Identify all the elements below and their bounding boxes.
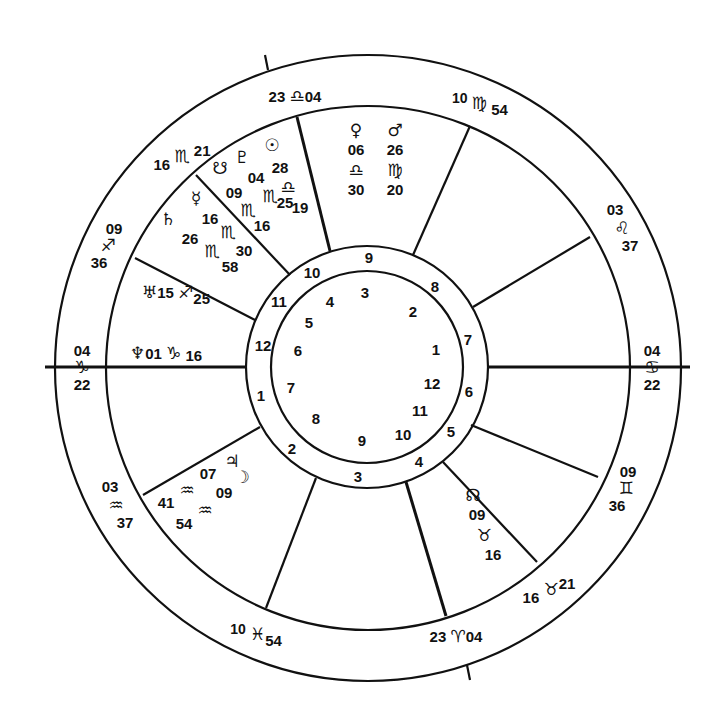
sagittarius-icon: ♐: [178, 282, 193, 302]
pisces-icon: ♓: [250, 624, 265, 644]
aries-icon: ♈: [450, 626, 465, 646]
cusp-line-mc-tick: [265, 55, 268, 70]
house-number-inner: 12: [424, 376, 441, 392]
north-node-icon: ☊: [445, 485, 502, 505]
libra-icon: ♎: [280, 179, 295, 195]
cancer-icon: ♋: [644, 359, 661, 376]
jupiter-min: 41: [158, 495, 175, 511]
planet-mars: ♂ 26 ♍ 20: [387, 120, 404, 200]
uranus-icon: ♅: [142, 282, 157, 302]
planet-neptune: ♆01 ♑ 16: [130, 345, 202, 362]
saturn-icon: ♄: [160, 211, 175, 227]
cusp-label-8: 09 ♐ 36: [90, 220, 123, 271]
natal-chart-wheel: [0, 0, 721, 724]
house-number-outer: 12: [255, 338, 272, 354]
house-number-inner: 8: [312, 411, 320, 427]
scorpio-icon: ♏: [204, 243, 219, 259]
south-node-min: 16: [254, 218, 271, 234]
sun-deg: 28: [272, 160, 289, 176]
scorpio-icon: ♏: [220, 224, 235, 240]
taurus-icon: ♉: [467, 525, 502, 545]
cusp-line-ic: [406, 482, 446, 616]
house-number-outer: 5: [447, 424, 455, 440]
planet-north-node: ☊ 09 ♉ 16: [463, 485, 502, 565]
aquarius-icon: ♒: [197, 502, 212, 518]
house-number-outer: 6: [465, 384, 473, 400]
house-number-outer: 9: [365, 250, 373, 266]
house-number-inner: 5: [305, 315, 313, 331]
house-ring-outer-circle: [246, 246, 488, 488]
saturn-min: 58: [222, 259, 239, 275]
aquarius-icon: ♒: [99, 496, 134, 514]
jupiter-deg: 07: [200, 466, 217, 482]
house-number-outer: 1: [257, 388, 265, 404]
cusp-label-11: 10 ♍ 54: [452, 95, 508, 112]
mercury-deg: 16: [202, 211, 219, 227]
cusp-label-5: 10 ♓54: [230, 626, 282, 643]
house-number-outer: 4: [415, 454, 423, 470]
cusp-label-ic: 23 ♈04: [430, 628, 483, 645]
house-number-outer: 2: [288, 441, 296, 457]
sagittarius-icon: ♐: [94, 237, 123, 254]
house-number-outer: 10: [304, 265, 321, 281]
house-number-inner: 7: [287, 380, 295, 396]
mercury-min: 30: [236, 243, 253, 259]
house-number-inner: 10: [395, 427, 412, 443]
house-number-inner: 4: [326, 294, 334, 310]
libra-icon: ♎: [348, 160, 365, 180]
gemini-icon: ♊: [616, 480, 637, 497]
moon-deg: 09: [216, 485, 233, 501]
house-number-outer: 3: [354, 469, 362, 485]
pluto-icon: ♇: [234, 149, 249, 165]
saturn-deg: 26: [182, 231, 199, 247]
cusp-label-3: 16 ♉21: [523, 581, 576, 598]
cusp-line-5: [266, 478, 316, 608]
house-number-outer: 7: [464, 332, 472, 348]
house-number-outer: 11: [271, 294, 287, 310]
house-number-inner: 9: [358, 433, 366, 449]
cusp-label-asc: 04 ♋ 22: [644, 342, 661, 393]
cusp-line-12: [473, 237, 590, 307]
scorpio-icon: ♏: [240, 202, 255, 218]
cusp-label-9: 16 ♏ 21: [154, 148, 211, 165]
aquarius-icon: ♒: [179, 482, 194, 498]
south-node-icon: ☋: [212, 160, 227, 176]
cusp-line-mc: [297, 117, 330, 251]
house-number-inner: 6: [294, 343, 302, 359]
house-number-outer: 8: [431, 279, 439, 295]
house-number-inner: 11: [412, 403, 428, 419]
scorpio-icon: ♏: [174, 146, 189, 166]
neptune-icon: ♆: [130, 343, 145, 363]
cusp-line-11: [413, 126, 470, 255]
pluto-deg: 04: [248, 170, 265, 186]
leo-icon: ♌: [606, 219, 639, 237]
cusp-label-dsc: 04 ♑ 22: [74, 342, 91, 393]
capricorn-icon: ♑: [166, 343, 181, 363]
cusp-label-mc: 23 ♎04: [269, 88, 322, 105]
libra-icon: ♎: [289, 86, 304, 106]
south-node-deg: 09: [226, 185, 243, 201]
moon-min: 54: [176, 516, 193, 532]
cusp-label-6: 03 ♒ 37: [103, 478, 134, 532]
capricorn-icon: ♑: [74, 359, 91, 376]
mars-icon: ♂: [387, 120, 404, 140]
scorpio-icon: ♏: [262, 188, 277, 204]
house-number-inner: 2: [409, 304, 417, 320]
sun-icon: ☉: [264, 137, 279, 153]
sun-min: 19: [292, 200, 309, 216]
cusp-line-ic-tick: [467, 665, 470, 680]
taurus-icon: ♉: [543, 579, 558, 599]
cusp-label-2: 09 ♊ 36: [610, 463, 637, 514]
virgo-icon: ♍: [387, 160, 404, 180]
planet-venus: ♀ 06 ♎ 30: [348, 120, 365, 200]
moon-icon: ☽: [234, 469, 249, 485]
house-number-inner: 1: [432, 342, 440, 358]
planet-uranus: ♅15 ♐25: [142, 284, 210, 301]
venus-icon: ♀: [348, 120, 365, 140]
virgo-icon: ♍: [472, 93, 487, 113]
mercury-icon: ☿: [191, 190, 201, 206]
cusp-line-2: [471, 425, 598, 477]
cusp-label-12: 03 ♌ 37: [606, 201, 639, 255]
house-number-inner: 3: [361, 285, 369, 301]
